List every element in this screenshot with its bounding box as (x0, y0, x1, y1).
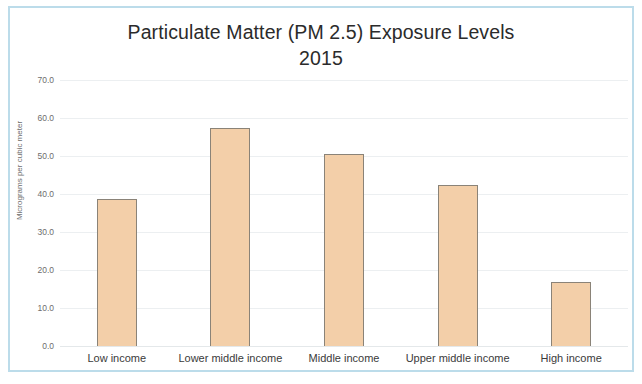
chart-title: Particulate Matter (PM 2.5) Exposure Lev… (10, 20, 632, 71)
y-tick-label: 20.0 (37, 265, 54, 275)
y-tick-label: 0.0 (42, 341, 54, 351)
x-tick-label: Lower middle income (178, 352, 282, 364)
y-tick-label: 60.0 (37, 113, 54, 123)
x-tick-label: Upper middle income (406, 352, 510, 364)
chart-title-line1: Particulate Matter (PM 2.5) Exposure Lev… (128, 21, 515, 43)
y-axis-title: Micrograms per cubic meter (15, 91, 24, 251)
x-tick-label: High income (541, 352, 602, 364)
x-tick-label: Low income (87, 352, 146, 364)
y-tick-label: 30.0 (37, 227, 54, 237)
bar (210, 128, 250, 347)
y-tick-label: 70.0 (37, 75, 54, 85)
plot-area (60, 80, 628, 346)
y-tick-label: 40.0 (37, 189, 54, 199)
chart-canvas: Particulate Matter (PM 2.5) Exposure Lev… (10, 8, 632, 370)
bar (438, 185, 478, 346)
gridline (60, 80, 628, 81)
gridline (60, 346, 628, 347)
chart-title-line2: 2015 (10, 46, 632, 72)
bar (324, 154, 364, 346)
bar (551, 282, 591, 346)
x-axis: Low incomeLower middle incomeMiddle inco… (60, 350, 628, 374)
y-tick-label: 50.0 (37, 151, 54, 161)
gridline (60, 118, 628, 119)
x-tick-label: Middle income (309, 352, 380, 364)
bar (97, 199, 137, 346)
chart-frame: Particulate Matter (PM 2.5) Exposure Lev… (8, 6, 634, 372)
y-tick-label: 10.0 (37, 303, 54, 313)
